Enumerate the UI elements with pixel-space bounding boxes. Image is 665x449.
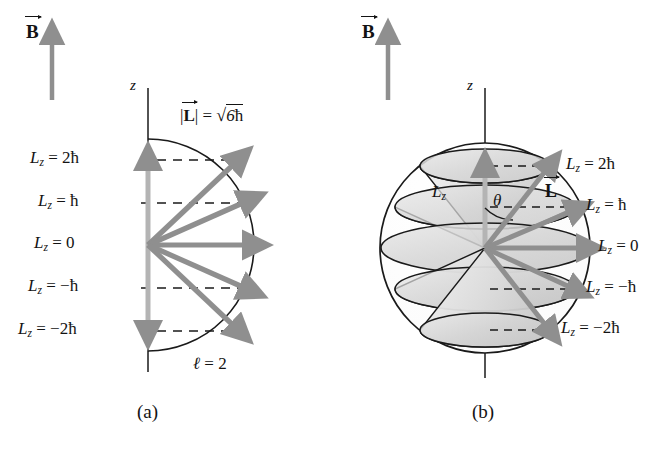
level-label-a-lz-2h: Lz = 2ħ	[30, 149, 79, 169]
vector-m-minus2	[148, 245, 235, 327]
level-label-b-lz-minus1h: Lz = −ħ	[586, 278, 636, 298]
b-field-label-a: B	[26, 22, 39, 41]
quantum-number-label-a: ℓ = 2	[193, 355, 227, 372]
level-label-a-lz-0: Lz = 0	[34, 234, 75, 254]
l-vector-label-b: L	[545, 182, 557, 200]
lz-component-label-b: Lz	[432, 183, 446, 203]
figure-canvas	[0, 0, 665, 449]
z-axis-label-b: z	[467, 78, 473, 93]
l-magnitude-label-a: |L| = √6ħ	[180, 106, 243, 124]
level-label-a-lz-1h: Lz = ħ	[38, 192, 79, 212]
theta-label-b: θ	[493, 192, 501, 209]
vector-m-2	[148, 163, 235, 245]
level-label-b-lz-2h: Lz = 2ħ	[566, 155, 615, 175]
angular-momentum-vectors-a	[148, 163, 248, 327]
vector-m-1	[148, 202, 245, 245]
vector-m-minus1	[148, 245, 245, 288]
panel-a-caption: (a)	[137, 402, 158, 421]
level-label-a-lz-minus1h: Lz = −ħ	[28, 277, 78, 297]
level-label-a-lz-minus2h: Lz = −2ħ	[18, 320, 77, 340]
level-label-b-lz-1h: Lz = ħ	[586, 196, 627, 216]
level-label-b-lz-0: Lz = 0	[598, 237, 639, 257]
figure-root: B z |L| = √6ħ Lz = 2ħ Lz = ħ Lz = 0 Lz =…	[0, 0, 665, 449]
b-field-label-b: B	[362, 22, 375, 41]
level-label-b-lz-minus2h: Lz = −2ħ	[561, 319, 620, 339]
panel-b-caption: (b)	[472, 402, 494, 421]
panel-a-graphics	[52, 40, 254, 372]
z-axis-label-a: z	[130, 78, 136, 93]
panel-b-graphics	[380, 40, 590, 378]
